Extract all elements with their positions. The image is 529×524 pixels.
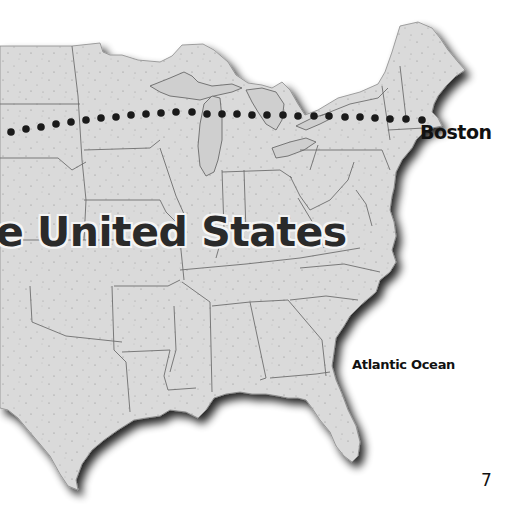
ocean-label: Atlantic Ocean	[352, 357, 455, 372]
city-label-boston: Boston	[420, 121, 492, 143]
map-title: e United States	[0, 208, 347, 256]
page-number: 7	[481, 470, 492, 490]
us-map	[0, 0, 529, 524]
